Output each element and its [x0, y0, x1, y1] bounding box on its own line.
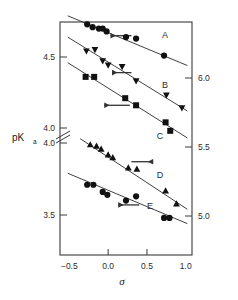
y-axis-label: pK: [12, 132, 25, 143]
plot-frame: [60, 22, 192, 255]
svg-text:4.0: 4.0: [43, 123, 55, 133]
right-axis-ticks: [185, 78, 192, 216]
svg-text:4.5: 4.5: [43, 52, 55, 62]
left-axis-tick-labels: 4.54.04.03.5: [43, 52, 55, 220]
series-annotation-arrows: [104, 36, 153, 205]
svg-text:5.0: 5.0: [198, 211, 210, 221]
x-axis-ticks: [69, 249, 185, 255]
axis-break-marker: [56, 131, 70, 143]
svg-text:−0.5: −0.5: [61, 261, 78, 271]
series-label-c: C: [157, 131, 164, 141]
series-label-d: D: [157, 170, 164, 180]
svg-text:1.0: 1.0: [180, 261, 192, 271]
svg-text:4.0: 4.0: [43, 138, 55, 148]
series-data-markers: [83, 21, 186, 221]
pka-sigma-scatter-plot: 4.54.04.03.5 6.05.55.0 −0.50.00.51.0 ABC…: [0, 0, 238, 300]
series-fit-lines: [68, 16, 188, 224]
figure-container: 4.54.04.03.5 6.05.55.0 −0.50.00.51.0 ABC…: [0, 0, 238, 300]
svg-text:5.5: 5.5: [198, 142, 210, 152]
y-axis-label-subscript: a: [33, 138, 37, 145]
svg-text:6.0: 6.0: [198, 73, 210, 83]
svg-text:3.5: 3.5: [43, 210, 55, 220]
series-label-e: E: [147, 201, 153, 211]
x-axis-tick-labels: −0.50.00.51.0: [61, 261, 192, 271]
x-axis-label: σ: [119, 275, 125, 287]
svg-text:0.0: 0.0: [102, 261, 114, 271]
series-label-a: A: [162, 30, 168, 40]
svg-text:0.5: 0.5: [141, 261, 153, 271]
series-label-b: B: [162, 80, 168, 90]
right-axis-tick-labels: 6.05.55.0: [198, 73, 210, 221]
